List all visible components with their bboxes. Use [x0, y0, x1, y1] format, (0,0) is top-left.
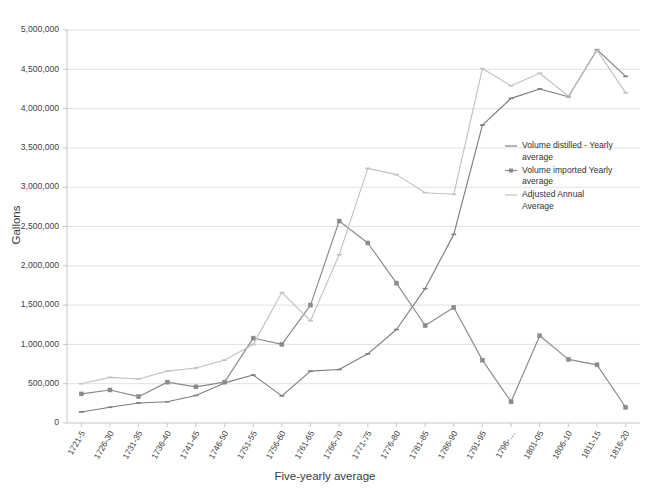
data-point-marker — [366, 241, 370, 245]
y-tick-label: 1,500,000 — [21, 299, 59, 309]
data-series — [79, 50, 628, 412]
data-point-marker — [223, 380, 227, 384]
legend-swatch-square — [509, 169, 513, 173]
x-tick-label: 1756-60 — [264, 429, 288, 461]
series-1 — [79, 50, 628, 412]
data-point-marker — [509, 400, 513, 404]
data-point-marker — [194, 385, 198, 389]
y-tick-label: 1,000,000 — [21, 339, 59, 349]
legend-item-label[interactable]: Volume distilled - Yearly — [522, 140, 613, 150]
x-tick-label: 1746-50 — [206, 429, 230, 461]
series-line — [81, 50, 625, 412]
legend-marker — [505, 169, 517, 173]
x-tick-label: 1796-… — [493, 429, 517, 460]
y-axis — [63, 30, 67, 423]
chart-legend: Volume distilled - YearlyaverageVolume i… — [505, 140, 613, 211]
data-point-marker — [108, 388, 112, 392]
data-point-marker — [480, 358, 484, 362]
data-point-marker — [137, 395, 141, 399]
x-tick-label: 1776-80 — [378, 429, 402, 461]
x-tick-label: 1766-70 — [321, 429, 345, 461]
data-point-marker — [423, 324, 427, 328]
y-tick-label: 4,000,000 — [21, 103, 59, 113]
data-point-marker — [251, 336, 255, 340]
data-point-marker — [538, 334, 542, 338]
x-tick-label: 1801-05 — [521, 429, 545, 461]
y-axis-title: Gallons — [10, 205, 22, 244]
y-tick-label: 2,000,000 — [21, 260, 59, 270]
x-tick-label: 1806-10 — [550, 429, 574, 461]
series-line — [81, 221, 625, 407]
data-point-marker — [280, 342, 284, 346]
x-tick-label: 1811-15 — [579, 429, 603, 460]
data-point-marker — [309, 303, 313, 307]
gridlines — [67, 30, 640, 384]
legend-item-label-cont[interactable]: average — [522, 152, 553, 162]
series-3 — [79, 50, 628, 383]
x-tick-label: 1771-75 — [350, 429, 374, 461]
line-chart: 0500,0001,000,0001,500,0002,000,0002,500… — [0, 0, 651, 494]
legend-item-label-cont[interactable]: Average — [522, 201, 554, 211]
x-tick-label: 1761-65 — [292, 429, 316, 461]
data-point-marker — [165, 380, 169, 384]
data-point-marker — [566, 357, 570, 361]
data-point-marker — [624, 405, 628, 409]
x-tick-label: 1736-40 — [149, 429, 173, 461]
x-tick-label: 1791-95 — [464, 429, 488, 461]
y-tick-label: 2,500,000 — [21, 221, 59, 231]
y-tick-label: 500,000 — [28, 378, 59, 388]
x-tick-label: 1781-85 — [407, 429, 431, 461]
x-tick-label: 1731-35 — [120, 429, 144, 461]
legend-item-label-cont[interactable]: average — [522, 176, 553, 186]
y-tick-labels: 0500,0001,000,0001,500,0002,000,0002,500… — [21, 24, 59, 427]
y-tick-label: 4,500,000 — [21, 64, 59, 74]
series-line — [81, 50, 625, 383]
x-tick-label: 1786-90 — [435, 429, 459, 461]
y-tick-label: 3,500,000 — [21, 142, 59, 152]
data-point-marker — [394, 281, 398, 285]
series-2 — [79, 219, 627, 409]
data-point-marker — [595, 363, 599, 367]
data-point-marker — [452, 305, 456, 309]
x-tick-label: 1751-55 — [235, 429, 259, 461]
x-axis — [67, 423, 640, 427]
x-tick-label: 1726-30 — [92, 429, 116, 461]
legend-item-label[interactable]: Adjusted Annual — [522, 189, 584, 199]
y-tick-label: 0 — [54, 417, 59, 427]
x-tick-label: 1721-5 — [65, 429, 87, 457]
data-point-marker — [337, 219, 341, 223]
legend-item-label[interactable]: Volume imported Yearly — [522, 165, 613, 175]
y-tick-label: 5,000,000 — [21, 24, 59, 34]
x-axis-title: Five-yearly average — [275, 470, 376, 482]
data-point-marker — [79, 392, 83, 396]
x-tick-label: 1741-45 — [178, 429, 202, 461]
chart-container: 0500,0001,000,0001,500,0002,000,0002,500… — [0, 0, 651, 494]
y-tick-label: 3,000,000 — [21, 181, 59, 191]
x-tick-labels: 1721-51726-301731-351736-401741-451746-5… — [65, 429, 631, 461]
x-tick-label: 1816-20 — [607, 429, 631, 461]
